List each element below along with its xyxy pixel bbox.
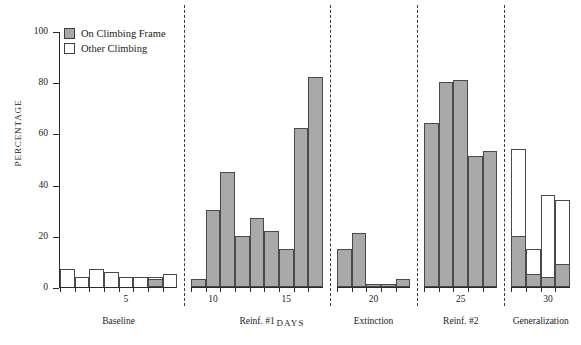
bar bbox=[163, 274, 178, 287]
x-tick bbox=[555, 288, 556, 292]
y-tick bbox=[53, 186, 59, 187]
bar-segment-on-climbing-frame bbox=[468, 156, 483, 287]
bar-segment-other-climbing bbox=[104, 272, 119, 287]
bar bbox=[250, 218, 265, 287]
bar-segment-on-climbing-frame bbox=[294, 128, 309, 287]
phase-group-reinf-2: 25Reinf. #2 bbox=[424, 32, 497, 288]
bar-segment-on-climbing-frame bbox=[396, 279, 411, 287]
bar bbox=[191, 279, 206, 287]
bar bbox=[75, 277, 90, 287]
bar bbox=[439, 82, 454, 287]
y-tick bbox=[53, 134, 59, 135]
x-tick-label: 5 bbox=[111, 294, 141, 304]
bar bbox=[220, 172, 235, 287]
y-tick-label: 0 bbox=[20, 283, 48, 293]
phase-divider bbox=[330, 5, 331, 306]
phase-divider bbox=[417, 5, 418, 306]
x-tick bbox=[148, 288, 149, 292]
bar-segment-on-climbing-frame bbox=[250, 218, 265, 287]
bar-group bbox=[191, 32, 323, 287]
bar-segment-on-climbing-frame bbox=[541, 277, 556, 287]
phase-divider bbox=[504, 5, 505, 306]
x-tick bbox=[337, 288, 338, 292]
bar bbox=[264, 231, 279, 287]
bar-segment-on-climbing-frame bbox=[220, 172, 235, 287]
x-tick bbox=[250, 288, 251, 292]
plot-area: 5Baseline1015Reinf. #120Extinction25Rein… bbox=[60, 32, 570, 288]
bar-segment-on-climbing-frame bbox=[235, 236, 250, 287]
bar bbox=[511, 149, 526, 287]
x-tick bbox=[279, 288, 280, 292]
bar bbox=[483, 151, 498, 287]
x-tick-label: 25 bbox=[446, 294, 476, 304]
bar bbox=[104, 272, 119, 287]
y-tick bbox=[53, 83, 59, 84]
phase-divider bbox=[184, 5, 185, 306]
y-tick-label: 40 bbox=[20, 181, 48, 191]
bar bbox=[294, 128, 309, 287]
x-tick bbox=[439, 288, 440, 292]
bar bbox=[381, 284, 396, 287]
bar-segment-on-climbing-frame bbox=[483, 151, 498, 287]
x-tick bbox=[104, 288, 105, 292]
bar-segment-other-climbing bbox=[163, 274, 178, 287]
x-tick bbox=[191, 288, 192, 292]
y-tick bbox=[53, 288, 59, 289]
x-tick bbox=[308, 288, 309, 292]
bar-segment-on-climbing-frame bbox=[352, 233, 367, 287]
y-tick-label: 80 bbox=[20, 78, 48, 88]
bar-group bbox=[60, 32, 177, 287]
bar bbox=[60, 269, 75, 287]
x-axis-segment bbox=[424, 287, 497, 288]
bar-segment-other-climbing bbox=[133, 277, 148, 287]
y-tick-label: 20 bbox=[20, 232, 48, 242]
bar-segment-on-climbing-frame bbox=[264, 231, 279, 287]
y-tick bbox=[53, 237, 59, 238]
bar-group bbox=[511, 32, 570, 287]
bar-segment-on-climbing-frame bbox=[191, 279, 206, 287]
bar-segment-on-climbing-frame bbox=[308, 77, 323, 287]
bar-segment-on-climbing-frame bbox=[511, 236, 526, 287]
bar bbox=[541, 195, 556, 287]
bar bbox=[453, 80, 468, 287]
x-tick-label: 10 bbox=[198, 294, 228, 304]
x-tick-label: 15 bbox=[271, 294, 301, 304]
y-tick-label: 60 bbox=[20, 129, 48, 139]
y-axis-title: PERCENTAGE bbox=[13, 88, 23, 178]
x-tick bbox=[468, 288, 469, 292]
bar-segment-other-climbing bbox=[541, 195, 556, 277]
bar bbox=[206, 210, 221, 287]
phase-group-baseline: 5Baseline bbox=[60, 32, 177, 288]
bar bbox=[279, 249, 294, 287]
x-tick bbox=[511, 288, 512, 292]
bar-segment-on-climbing-frame bbox=[453, 80, 468, 287]
bar-segment-on-climbing-frame bbox=[337, 249, 352, 287]
x-tick bbox=[366, 288, 367, 292]
x-axis-segment bbox=[191, 287, 323, 288]
y-tick-label: 100 bbox=[20, 27, 48, 37]
bar-segment-on-climbing-frame bbox=[279, 249, 294, 287]
bar-segment-on-climbing-frame bbox=[206, 210, 221, 287]
x-tick bbox=[163, 288, 164, 292]
bar bbox=[366, 284, 381, 287]
x-tick bbox=[119, 288, 120, 292]
x-tick bbox=[294, 288, 295, 292]
phase-group-reinf-1: 1015Reinf. #1 bbox=[191, 32, 323, 288]
bar bbox=[337, 249, 352, 287]
x-tick bbox=[541, 288, 542, 292]
bar bbox=[526, 249, 541, 287]
phase-group-generalization: 30Generalization bbox=[511, 32, 570, 288]
bar-segment-on-climbing-frame bbox=[424, 123, 439, 287]
x-tick bbox=[352, 288, 353, 292]
x-axis-segment bbox=[337, 287, 410, 288]
bar-segment-other-climbing bbox=[75, 277, 90, 287]
bar-segment-other-climbing bbox=[511, 149, 526, 236]
x-tick bbox=[60, 288, 61, 292]
x-tick bbox=[75, 288, 76, 292]
x-axis-title: DAYS bbox=[0, 318, 581, 328]
bar-group bbox=[337, 32, 410, 287]
bar bbox=[396, 279, 411, 287]
x-tick-label: 20 bbox=[359, 294, 389, 304]
bar-group bbox=[424, 32, 497, 287]
bar-segment-on-climbing-frame bbox=[439, 82, 454, 287]
